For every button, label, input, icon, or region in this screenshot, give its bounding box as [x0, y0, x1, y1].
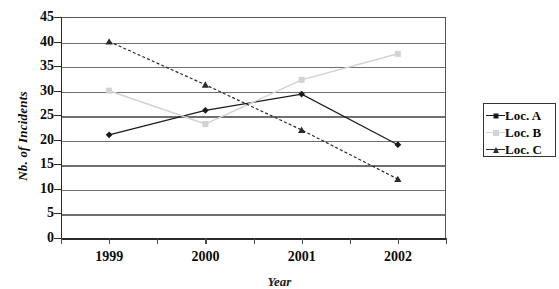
data-point-marker — [202, 81, 209, 87]
y-axis-tick-mark — [54, 189, 61, 190]
y-axis-tick-mark — [54, 42, 61, 43]
legend-item[interactable]: Loc. C — [486, 141, 555, 158]
series-layer — [0, 0, 559, 289]
x-axis-tick-mark — [254, 238, 255, 244]
data-point-marker — [106, 131, 113, 138]
legend-marker-icon — [486, 127, 505, 138]
x-axis-tick-mark — [61, 238, 62, 244]
x-axis-tick-label: 1999 — [74, 249, 144, 265]
y-axis-tick-mark — [54, 91, 61, 92]
series-line — [109, 54, 398, 124]
y-axis-tick-mark — [54, 238, 61, 239]
legend-item[interactable]: Loc. A — [486, 107, 555, 124]
data-point-marker — [395, 51, 401, 57]
legend-label: Loc. A — [505, 108, 541, 124]
x-axis-tick-label: 2000 — [170, 249, 240, 265]
data-point-marker — [394, 141, 401, 148]
chart-legend: Loc. ALoc. BLoc. C — [483, 103, 556, 157]
legend-item[interactable]: Loc. B — [486, 124, 555, 141]
y-axis-tick-mark — [54, 164, 61, 165]
x-axis-tick-mark — [398, 238, 399, 244]
x-axis-tick-label: 2001 — [267, 249, 337, 265]
x-axis-tick-label: 2002 — [363, 249, 433, 265]
data-point-marker — [106, 38, 113, 44]
x-axis-tick-mark — [446, 238, 447, 244]
y-axis-tick-mark — [54, 213, 61, 214]
x-axis-tick-mark — [157, 238, 158, 244]
data-point-marker — [298, 127, 305, 133]
data-point-marker — [298, 91, 305, 98]
data-point-marker — [394, 176, 401, 182]
data-point-marker — [106, 88, 112, 94]
x-axis-tick-mark — [302, 238, 303, 244]
legend-marker-icon — [486, 110, 505, 121]
y-axis-tick-mark — [54, 17, 61, 18]
y-axis-tick-mark — [54, 66, 61, 67]
y-axis-tick-mark — [54, 140, 61, 141]
series-loc-b — [106, 51, 401, 127]
data-point-marker — [202, 121, 208, 127]
x-axis-tick-mark — [205, 238, 206, 244]
x-axis-title: Year — [0, 274, 559, 289]
series-loc-a — [106, 91, 402, 148]
x-axis-tick-mark — [350, 238, 351, 244]
legend-label: Loc. B — [505, 125, 541, 141]
x-axis-tick-mark — [109, 238, 110, 244]
data-point-marker — [299, 77, 305, 83]
data-point-marker — [202, 107, 209, 114]
line-chart: Nb. of Incidents 051015202530354045 Loc.… — [0, 0, 559, 289]
y-axis-tick-mark — [54, 115, 61, 116]
series-loc-c — [106, 38, 402, 182]
series-line — [109, 42, 398, 180]
legend-marker-icon — [486, 144, 505, 155]
legend-label: Loc. C — [505, 142, 542, 158]
